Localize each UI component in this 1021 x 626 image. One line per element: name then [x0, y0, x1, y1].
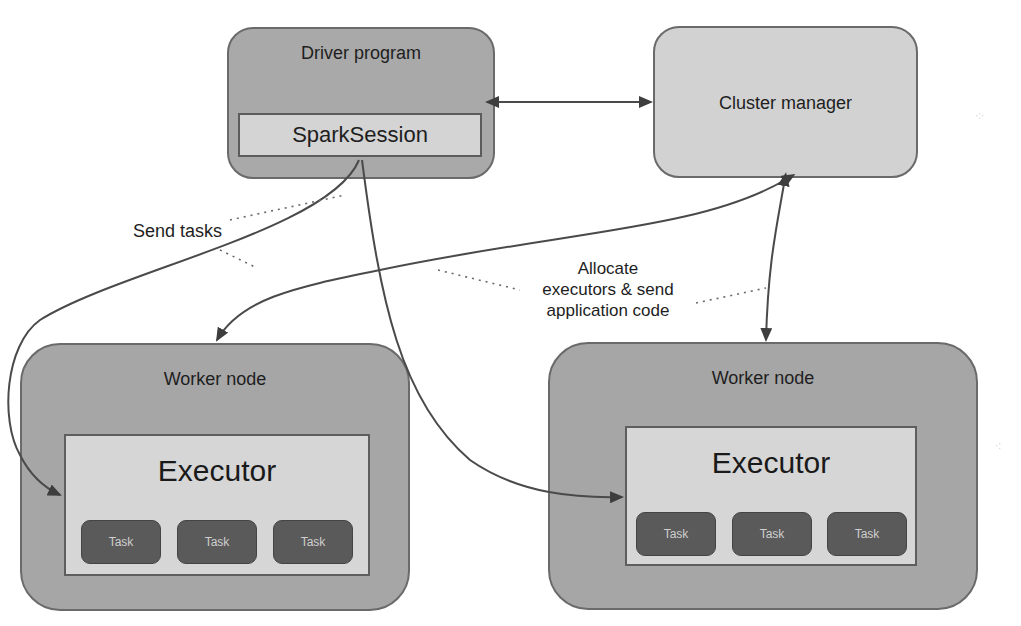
- allocate-leader: [438, 270, 520, 290]
- send-tasks-leader: [230, 195, 345, 220]
- executor-title: Executor: [627, 446, 915, 480]
- cluster-left-worker-arrow: [217, 180, 785, 340]
- cluster-right-worker-arrow: [766, 184, 784, 340]
- task-box: Task: [636, 512, 716, 556]
- cluster-manager-title: Cluster manager: [655, 93, 916, 114]
- executor-title: Executor: [66, 454, 368, 488]
- scan-artifact: ·:: [995, 440, 1001, 451]
- task-box: Task: [827, 512, 907, 556]
- task-box: Task: [177, 520, 257, 564]
- allocate-line-1: Allocate: [523, 258, 693, 279]
- send-tasks-label: Send tasks: [133, 221, 222, 242]
- scan-artifact: ·:·: [975, 110, 984, 121]
- executor-left: Executor Task Task Task: [64, 434, 370, 576]
- driver-program-title: Driver program: [229, 43, 493, 64]
- executor-right: Executor Task Task Task: [625, 426, 917, 566]
- allocate-executors-label: Allocate executors & send application co…: [523, 258, 693, 321]
- allocate-line-3: application code: [523, 300, 693, 321]
- send-tasks-leader: [220, 250, 255, 267]
- task-box: Task: [81, 520, 161, 564]
- task-box: Task: [273, 520, 353, 564]
- task-box: Task: [732, 512, 812, 556]
- allocate-leader: [696, 288, 766, 303]
- worker-node-title: Worker node: [22, 369, 408, 390]
- worker-node-title: Worker node: [550, 368, 976, 389]
- allocate-line-2: executors & send: [523, 279, 693, 300]
- spark-session-box: SparkSession: [238, 113, 482, 157]
- cluster-manager-node: Cluster manager: [653, 26, 918, 178]
